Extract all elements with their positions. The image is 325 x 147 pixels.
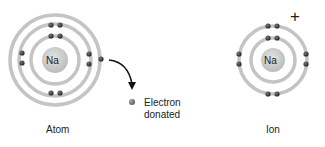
donated-label-line2: donated (144, 109, 180, 120)
ion-label: Ion (266, 124, 280, 135)
donation-arrow (109, 60, 132, 84)
charge-sign: + (290, 8, 300, 25)
ion-symbol: Na (264, 55, 277, 66)
atom-symbol: Na (46, 55, 59, 66)
atom-label: Atom (46, 124, 69, 135)
arrow-head-icon (128, 82, 136, 90)
donated-label-line1: Electron (144, 97, 181, 108)
donated-electron (129, 99, 135, 105)
